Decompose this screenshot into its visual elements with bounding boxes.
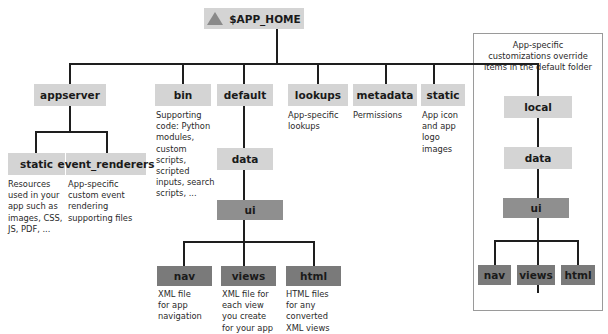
default-node: default xyxy=(217,84,273,106)
local-html-node: html xyxy=(561,265,595,285)
local-data-node: data xyxy=(504,147,572,169)
local-views-node: views xyxy=(517,265,555,285)
appserver-static-description: Resourcesused in yourapp such asimages, … xyxy=(8,179,62,235)
default-views-node: views xyxy=(221,266,276,286)
local-nav-node: nav xyxy=(478,265,511,285)
lookups-node: lookups xyxy=(288,84,348,106)
default-nav-node: nav xyxy=(157,266,212,286)
html-description: HTML filesfor anyconvertedXML views xyxy=(286,289,330,334)
triangle-icon xyxy=(207,12,223,25)
local-node: local xyxy=(504,96,572,118)
bin-description: Supportingcode: Pythonmodules,customscri… xyxy=(156,110,215,200)
nav-description: XML filefor appnavigation xyxy=(158,289,202,323)
default-html-node: html xyxy=(286,266,341,286)
app-home-node: $APP_HOME xyxy=(204,8,304,29)
bin-node: bin xyxy=(155,84,211,106)
metadata-node: metadata xyxy=(353,84,417,106)
event-renderers-node: event_renderers xyxy=(66,153,146,175)
lookups-description: App-specificlookups xyxy=(288,110,339,132)
appserver-static-node: static xyxy=(8,153,65,175)
default-ui-node: ui xyxy=(217,200,283,220)
local-ui-node: ui xyxy=(503,198,569,218)
static-description: App iconand applogoimages xyxy=(422,110,458,155)
event-renderers-description: App-specificcustom eventrenderingsupport… xyxy=(68,179,132,224)
static-node: static xyxy=(421,84,465,106)
default-data-node: data xyxy=(217,148,273,170)
views-description: XML file foreach viewyou createfor your … xyxy=(222,289,273,334)
metadata-description: Permissions xyxy=(353,110,402,121)
appserver-node: appserver xyxy=(34,84,106,106)
